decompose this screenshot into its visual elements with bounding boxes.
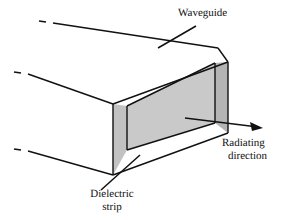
waveguide-figure: Waveguide Dielectric strip Radiating dir… bbox=[0, 0, 297, 220]
bottom-front-edge-dash bbox=[14, 149, 21, 150]
waveguide-label: Waveguide bbox=[178, 7, 227, 19]
radiating-direction-label-line2: direction bbox=[228, 150, 268, 162]
top-back-edge-dash bbox=[39, 21, 46, 22]
top-front-edge-dash bbox=[14, 72, 21, 73]
dielectric-strip-face bbox=[113, 104, 127, 175]
waveguide-diagram-canvas: Waveguide Dielectric strip Radiating dir… bbox=[0, 0, 297, 220]
bottom-front-edge bbox=[28, 151, 113, 175]
radiating-direction-arrow-head bbox=[250, 122, 263, 131]
dielectric-strip-label-line1: Dielectric bbox=[90, 188, 133, 200]
radiating-direction-label-line1: Radiating bbox=[222, 137, 265, 149]
dielectric-strip-label-line2: strip bbox=[102, 201, 122, 213]
